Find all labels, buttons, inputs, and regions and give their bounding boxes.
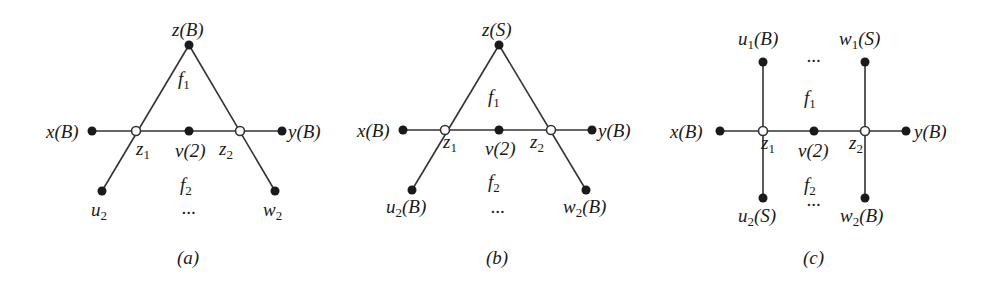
ellipsis-top: ... [807, 45, 821, 66]
caption-a: (a) [177, 247, 199, 269]
node-x [399, 126, 408, 135]
node-v [185, 127, 194, 136]
label-w2: w2(B) [840, 205, 883, 229]
node-x [716, 127, 725, 136]
node-z2 [547, 126, 556, 135]
node-w1 [861, 58, 870, 67]
label-x: x(B) [45, 121, 79, 143]
label-u2: u2 [91, 199, 107, 223]
figure-canvas: z(B) x(B) y(B) z1 z2 v(2) u2 w2 f1 f2 ..… [0, 0, 991, 291]
label-w2: w2(B) [563, 196, 606, 220]
edge-z-w2 [189, 45, 275, 191]
label-z1: z1 [135, 138, 150, 162]
caption-c: (c) [803, 247, 824, 269]
panel-c: u1(B) w1(S) x(B) y(B) z1 z2 v(2) u2(S) w… [669, 28, 947, 269]
panel-b: z(S) x(B) y(B) z1 z2 v(2) u2(B) w2(B) f1… [356, 19, 631, 269]
label-w1: w1(S) [839, 28, 880, 52]
node-u1 [759, 58, 768, 67]
caption-b: (b) [486, 247, 508, 269]
label-z2: z2 [529, 131, 544, 155]
node-u2 [98, 187, 107, 196]
edge-z-w2 [499, 45, 586, 190]
ellipsis-bottom: ... [807, 189, 821, 210]
label-y: y(B) [286, 121, 321, 143]
node-z2 [236, 127, 245, 136]
label-x: x(B) [669, 121, 703, 143]
label-v: v(2) [485, 138, 516, 160]
node-x [88, 127, 97, 136]
node-y [902, 127, 911, 136]
label-u1: u1(B) [738, 28, 778, 52]
panel-a: z(B) x(B) y(B) z1 z2 v(2) u2 w2 f1 f2 ..… [45, 19, 321, 269]
label-v: v(2) [798, 140, 829, 162]
edge-z-u2 [412, 45, 499, 190]
label-z1: z1 [442, 131, 457, 155]
node-u2 [408, 186, 417, 195]
node-w2 [271, 187, 280, 196]
label-v: v(2) [175, 140, 206, 162]
label-u2: u2(S) [738, 205, 776, 229]
label-y: y(B) [596, 120, 631, 142]
node-v [810, 127, 819, 136]
node-z [495, 41, 504, 50]
label-z2: z2 [218, 138, 233, 162]
node-z1 [132, 127, 141, 136]
ellipsis: ... [491, 196, 505, 217]
node-u2 [759, 194, 768, 203]
face-f2: f2 [488, 171, 500, 195]
node-y [588, 126, 597, 135]
node-w2 [582, 186, 591, 195]
face-f1: f1 [488, 86, 500, 110]
node-z2 [861, 127, 870, 136]
node-v [495, 126, 504, 135]
label-z1: z1 [760, 132, 775, 156]
label-z2: z2 [848, 132, 863, 156]
face-f1: f1 [178, 68, 190, 92]
face-f2: f2 [180, 174, 192, 198]
face-f1: f1 [804, 87, 816, 111]
label-z: z(S) [481, 19, 512, 41]
label-x: x(B) [356, 120, 390, 142]
label-y: y(B) [912, 121, 947, 143]
label-w2: w2 [263, 199, 282, 223]
node-z [185, 41, 194, 50]
node-w2 [861, 194, 870, 203]
ellipsis: ... [182, 197, 196, 218]
edge-z-u2 [102, 45, 189, 191]
node-y [278, 127, 287, 136]
label-u2: u2(B) [386, 196, 426, 220]
label-z: z(B) [171, 19, 204, 41]
